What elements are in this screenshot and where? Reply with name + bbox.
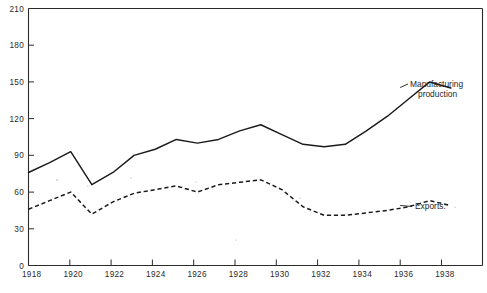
chart-container: 0 30 60 90 120 150 180 210 1918 1920 192… [0, 0, 487, 293]
y-tick-label-30: 30 [14, 225, 24, 234]
leader-line-manufacturing [400, 84, 408, 88]
y-tick-label-60: 60 [14, 188, 24, 197]
x-tick-label-1928: 1928 [229, 270, 249, 279]
x-tick-label-1938: 1938 [435, 270, 455, 279]
paper-speck-group [56, 177, 455, 240]
y-tick-label-90: 90 [14, 151, 24, 160]
y-tick-group: 0 30 60 90 120 150 180 210 [9, 5, 34, 271]
x-tick-label-1924: 1924 [146, 270, 166, 279]
line-chart: 0 30 60 90 120 150 180 210 1918 1920 192… [0, 0, 487, 293]
x-tick-label-1934: 1934 [353, 270, 373, 279]
series-line-manufacturing-production [29, 82, 451, 185]
y-tick-label-210: 210 [9, 5, 24, 14]
x-tick-label-1920: 1920 [64, 270, 84, 279]
plot-frame [29, 9, 483, 266]
y-tick-label-180: 180 [9, 41, 24, 50]
x-tick-label-1922: 1922 [105, 270, 125, 279]
y-tick-label-120: 120 [9, 115, 24, 124]
x-tick-label-1930: 1930 [270, 270, 290, 279]
x-tick-group: 1918 1920 1922 1924 1926 1928 1930 1932 … [22, 260, 455, 280]
x-tick-label-1926: 1926 [187, 270, 207, 279]
series-label-manufacturing-line1: Manufacturing [410, 79, 463, 89]
x-tick-label-1936: 1936 [394, 270, 414, 279]
x-tick-label-1918: 1918 [22, 270, 42, 279]
series-label-exports: Exports. [415, 201, 446, 211]
series-label-manufacturing-line2: production [418, 89, 457, 99]
x-tick-label-1932: 1932 [311, 270, 331, 279]
y-tick-label-150: 150 [9, 78, 24, 87]
